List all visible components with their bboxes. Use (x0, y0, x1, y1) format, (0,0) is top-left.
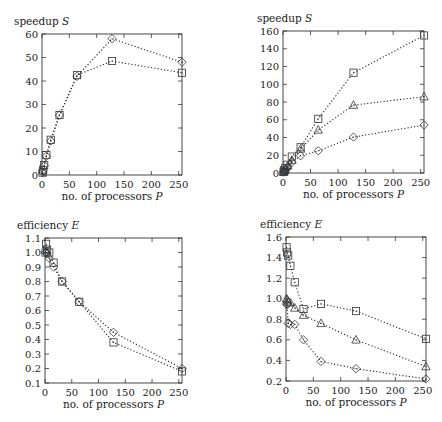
y-tick-label: 0.8 (25, 276, 41, 287)
y-tick-label: 1.4 (266, 252, 282, 263)
y-tick-label: 20 (266, 150, 279, 161)
y-tick-label: 0.4 (25, 334, 41, 345)
x-tick-label: 150 (358, 385, 377, 396)
y-tick-label: 1.6 (266, 232, 282, 243)
chart-speedup-left: 0501001502002500102030405060speedup Sno.… (14, 15, 188, 202)
y-tick-label: 0.9 (25, 262, 41, 273)
y-tick-label: 20 (25, 123, 38, 134)
y-tick-label: 140 (260, 43, 279, 54)
x-tick-label: 50 (63, 179, 76, 190)
y-tick-label: 0.2 (25, 363, 41, 374)
x-tick-label: 250 (413, 385, 432, 396)
x-tick-label: 100 (89, 387, 108, 398)
x-tick-label: 50 (304, 177, 317, 188)
y-tick-label: 0 (32, 170, 38, 181)
x-tick-label: 200 (386, 385, 405, 396)
x-tick-label: 100 (329, 177, 348, 188)
y-tick-label: 60 (266, 114, 279, 125)
x-tick-label: 0 (39, 179, 45, 190)
y-tick-label: 0.8 (266, 314, 282, 325)
y-axis-label: efficiency E (17, 219, 79, 231)
plot-frame (42, 34, 182, 175)
y-tick-label: 0.6 (25, 305, 41, 316)
y-axis-label: efficiency E (260, 218, 322, 230)
x-tick-label: 200 (142, 179, 161, 190)
series-square-line (287, 247, 426, 339)
x-axis-label: no. of processors P (63, 398, 165, 410)
chart-efficiency-left: 0501001502002500.10.20.30.40.50.60.70.80… (17, 219, 188, 410)
triangle-marker (352, 335, 360, 343)
x-axis-label: no. of processors P (303, 188, 405, 200)
x-tick-label: 150 (114, 179, 133, 190)
x-tick-label: 50 (307, 385, 320, 396)
y-axis-label: speedup S (257, 12, 312, 24)
x-tick-label: 0 (42, 387, 48, 398)
y-tick-label: 0 (273, 168, 279, 179)
y-tick-label: 120 (260, 61, 279, 72)
x-tick-label: 200 (142, 387, 161, 398)
y-tick-label: 30 (25, 99, 38, 110)
series-diamond-line (287, 304, 426, 379)
y-tick-label: 50 (25, 52, 38, 63)
x-axis-label: no. of processors P (61, 190, 163, 202)
x-tick-label: 250 (169, 387, 188, 398)
y-tick-label: 0.5 (25, 320, 41, 331)
y-tick-label: 0.2 (266, 376, 282, 387)
y-tick-label: 100 (260, 79, 279, 90)
y-tick-label: 40 (266, 132, 279, 143)
x-axis-label: no. of processors P (305, 396, 407, 408)
y-tick-label: 0.6 (266, 334, 282, 345)
x-tick-label: 250 (169, 179, 188, 190)
series-diamond-line (43, 39, 182, 173)
y-tick-label: 80 (266, 97, 279, 108)
x-tick-label: 150 (356, 177, 375, 188)
y-tick-label: 1.0 (25, 247, 41, 258)
triangle-marker (314, 126, 322, 134)
y-tick-label: 1.0 (266, 293, 282, 304)
figure-canvas: 0501001502002500102030405060speedup Sno.… (0, 0, 442, 422)
x-tick-label: 100 (331, 385, 350, 396)
y-tick-label: 10 (25, 146, 38, 157)
chart-speedup-right: 050100150200250020406080100120140160spee… (257, 12, 430, 200)
chart-efficiency-right: 0501001502002500.20.40.60.81.01.21.41.6e… (260, 218, 432, 408)
x-tick-label: 250 (411, 177, 430, 188)
series-diamond-line (46, 253, 182, 369)
series-square-line (46, 244, 182, 372)
y-tick-label: 60 (25, 29, 38, 40)
x-tick-label: 0 (283, 385, 289, 396)
y-axis-label: speedup S (14, 15, 69, 27)
y-tick-label: 40 (25, 76, 38, 87)
y-tick-label: 1.2 (266, 273, 282, 284)
y-tick-label: 0.1 (25, 378, 41, 389)
y-tick-label: 0.3 (25, 349, 41, 360)
y-tick-label: 0.7 (25, 291, 41, 302)
y-tick-label: 160 (260, 26, 279, 37)
y-tick-label: 1.1 (25, 233, 41, 244)
x-tick-label: 0 (280, 177, 286, 188)
x-tick-label: 50 (65, 387, 78, 398)
x-tick-label: 100 (87, 179, 106, 190)
plot-frame (45, 238, 182, 383)
x-tick-label: 200 (384, 177, 403, 188)
y-tick-label: 0.4 (266, 355, 282, 366)
x-tick-label: 150 (116, 387, 135, 398)
